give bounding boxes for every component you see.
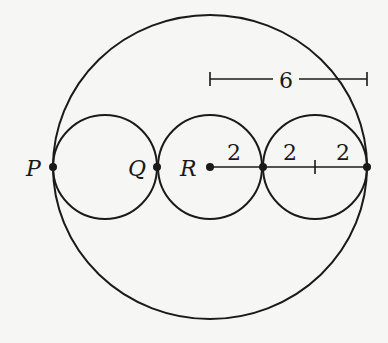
dimension-label: 6 xyxy=(279,68,293,93)
dimension-line: 6 xyxy=(210,68,367,93)
point-junction xyxy=(259,163,267,171)
label-R: R xyxy=(179,156,197,181)
geometry-diagram: 6 P Q R 2 2 2 xyxy=(0,0,388,343)
label-Q: Q xyxy=(128,156,146,181)
segment-label-3: 2 xyxy=(336,140,350,165)
label-P: P xyxy=(25,156,42,181)
point-R xyxy=(206,163,214,171)
point-Q xyxy=(153,163,161,171)
segment-label-2: 2 xyxy=(283,140,297,165)
point-end xyxy=(363,163,371,171)
segment-label-1: 2 xyxy=(227,140,241,165)
point-P xyxy=(49,163,57,171)
